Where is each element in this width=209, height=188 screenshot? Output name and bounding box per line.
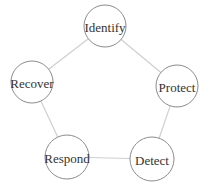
edge-protect-detect: [159, 106, 170, 138]
node-label: Identify: [84, 20, 126, 35]
node-protect: Protect: [156, 65, 198, 107]
node-detect: Detect: [130, 137, 174, 181]
edge-respond-recover: [41, 101, 58, 137]
edge-detect-respond: [89, 158, 130, 159]
node-recover: Recover: [10, 61, 54, 103]
node-label: Respond: [44, 151, 90, 166]
cycle-diagram: Identify Protect Detect Respond Recover: [0, 0, 209, 188]
node-label: Detect: [135, 153, 169, 168]
nodes-layer: Identify Protect Detect Respond Recover: [10, 5, 198, 181]
edge-recover-identify: [49, 39, 89, 69]
edge-identify-protect: [121, 39, 161, 72]
node-respond: Respond: [44, 135, 90, 179]
node-label: Recover: [10, 76, 54, 91]
node-label: Protect: [159, 80, 196, 95]
node-identify: Identify: [84, 5, 126, 47]
